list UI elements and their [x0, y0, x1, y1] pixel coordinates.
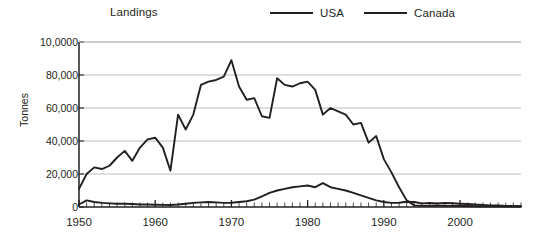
chart-plot-area [0, 0, 547, 242]
chart-figure: Landings USA Canada Tonnes 10,000080,000… [0, 0, 547, 242]
data-line-canada [79, 60, 521, 206]
